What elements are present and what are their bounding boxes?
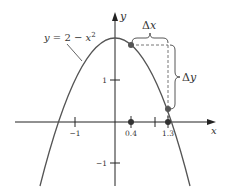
point-x-1.3-on-curve [165,106,171,112]
y-tick-label-1: 1 [102,76,107,85]
y-tick-label-minus-1: −1 [96,159,107,168]
delta-x-brace [132,33,168,43]
x-tick-label-1.3: 1.3 [162,129,174,138]
delta-y-label: Δy [182,71,197,84]
equation-exponent: 2 [91,31,95,39]
delta-y-brace [170,45,180,109]
delta-y-var: y [189,71,197,84]
delta-x-symbol: Δ [142,19,150,32]
equation-rest: = 2 − [50,32,86,43]
graph-canvas: y = 2 − x2 y x −1 0.4 1.3 1 −1 Δx Δy [0,0,230,193]
y-axis-label: y [119,10,127,23]
y-axis-arrow-icon [112,12,118,21]
x-tick-label-0.4: 0.4 [125,129,137,138]
x-axis-label: x [211,125,217,136]
delta-y-symbol: Δ [182,71,190,84]
point-x-0.4-on-curve [128,42,134,48]
equation-label: y = 2 − x2 [43,31,96,43]
delta-x-var: x [150,19,157,32]
delta-x-label: Δx [142,19,157,32]
x-tick-label-minus-1: −1 [69,129,80,138]
equation-leader-line [67,44,82,61]
